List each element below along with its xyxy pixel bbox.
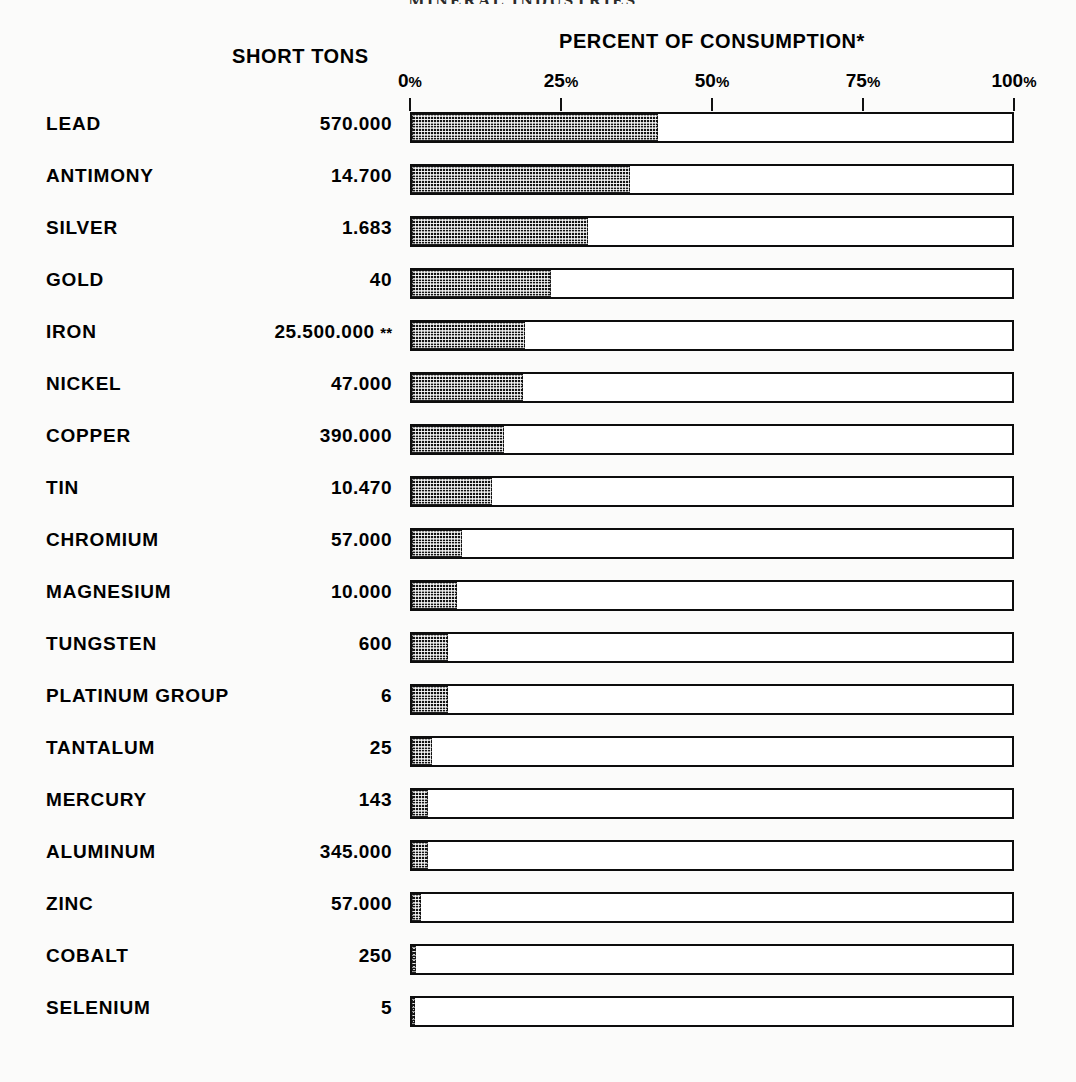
- bar-fill: [412, 218, 588, 245]
- row-short-tons-value: 10.470: [160, 477, 392, 499]
- short-tons-number: 570.000: [320, 113, 392, 134]
- row-short-tons-value: 390.000: [160, 425, 392, 447]
- row-label-zinc: ZINC: [46, 893, 94, 915]
- row-short-tons-value: 600: [160, 633, 392, 655]
- bar-fill: [412, 998, 415, 1025]
- short-tons-number: 6: [381, 685, 392, 706]
- short-tons-number: 14.700: [331, 165, 392, 186]
- bar-fill: [412, 270, 551, 297]
- chart-row: PLATINUM GROUP6: [0, 676, 1076, 728]
- chart-row: MERCURY143: [0, 780, 1076, 832]
- bar-track: [410, 684, 1014, 715]
- chart-row: TANTALUM25: [0, 728, 1076, 780]
- row-short-tons-value: 143: [160, 789, 392, 811]
- chart-row: CHROMIUM57.000: [0, 520, 1076, 572]
- short-tons-number: 57.000: [331, 893, 392, 914]
- chart-row: TIN10.470: [0, 468, 1076, 520]
- bar-track: [410, 424, 1014, 455]
- running-head: MINERAL INDUSTRIES: [0, 0, 1076, 4]
- row-short-tons-value: 57.000: [160, 529, 392, 551]
- bar-track: [410, 788, 1014, 819]
- bar-track: [410, 580, 1014, 611]
- row-short-tons-value: 25: [160, 737, 392, 759]
- bar-track: [410, 528, 1014, 559]
- row-label-tungsten: TUNGSTEN: [46, 633, 157, 655]
- chart-row: ZINC57.000: [0, 884, 1076, 936]
- bar-track: [410, 944, 1014, 975]
- bar-track: [410, 372, 1014, 403]
- row-label-tin: TIN: [46, 477, 79, 499]
- short-tons-number: 250: [359, 945, 392, 966]
- bar-fill: [412, 634, 448, 661]
- bar-fill: [412, 790, 428, 817]
- short-tons-number: 47.000: [331, 373, 392, 394]
- row-label-lead: LEAD: [46, 113, 101, 135]
- bar-track: [410, 216, 1014, 247]
- bar-track: [410, 840, 1014, 871]
- row-label-gold: GOLD: [46, 269, 104, 291]
- chart-row: SELENIUM5: [0, 988, 1076, 1040]
- short-tons-number: 25: [370, 737, 392, 758]
- bar-fill: [412, 322, 525, 349]
- bar-fill: [412, 478, 492, 505]
- axis-tick-label-75: 75%: [846, 70, 880, 92]
- bar-fill: [412, 166, 630, 193]
- bar-track: [410, 996, 1014, 1027]
- bar-fill: [412, 114, 658, 141]
- bar-track: [410, 164, 1014, 195]
- chart-row: SILVER1.683: [0, 208, 1076, 260]
- chart-row: ALUMINUM345.000: [0, 832, 1076, 884]
- row-label-antimony: ANTIMONY: [46, 165, 154, 187]
- chart-row: NICKEL47.000: [0, 364, 1076, 416]
- bar-track: [410, 736, 1014, 767]
- short-tons-number: 57.000: [331, 529, 392, 550]
- short-tons-number: 10.470: [331, 477, 392, 498]
- row-label-tantalum: TANTALUM: [46, 737, 155, 759]
- row-short-tons-value: 6: [160, 685, 392, 707]
- row-label-selenium: SELENIUM: [46, 997, 151, 1019]
- row-label-silver: SILVER: [46, 217, 118, 239]
- short-tons-number: 1.683: [342, 217, 392, 238]
- row-short-tons-value: 5: [160, 997, 392, 1019]
- short-tons-number: 143: [359, 789, 392, 810]
- axis-tick-label-100: 100%: [991, 70, 1036, 92]
- row-label-magnesium: MAGNESIUM: [46, 581, 171, 603]
- bar-fill: [412, 894, 421, 921]
- chart-row: ANTIMONY14.700: [0, 156, 1076, 208]
- short-tons-number: 25.500.000: [274, 321, 374, 342]
- row-short-tons-value: 25.500.000 **: [160, 321, 392, 343]
- row-label-cobalt: COBALT: [46, 945, 129, 967]
- short-tons-number: 10.000: [331, 581, 392, 602]
- row-label-iron: IRON: [46, 321, 97, 343]
- bar-fill: [412, 582, 457, 609]
- row-short-tons-value: 57.000: [160, 893, 392, 915]
- bar-fill: [412, 842, 428, 869]
- row-short-tons-value: 14.700: [160, 165, 392, 187]
- short-tons-number: 390.000: [320, 425, 392, 446]
- row-label-chromium: CHROMIUM: [46, 529, 159, 551]
- bar-fill: [412, 374, 523, 401]
- bar-track: [410, 476, 1014, 507]
- bar-track: [410, 320, 1014, 351]
- row-label-mercury: MERCURY: [46, 789, 147, 811]
- row-short-tons-value: 570.000: [160, 113, 392, 135]
- bar-fill: [412, 946, 416, 973]
- chart-row: GOLD40: [0, 260, 1076, 312]
- row-label-aluminum: ALUMINUM: [46, 841, 156, 863]
- chart-row: COBALT250: [0, 936, 1076, 988]
- short-tons-number: 5: [381, 997, 392, 1018]
- row-short-tons-value: 345.000: [160, 841, 392, 863]
- chart-row: COPPER390.000: [0, 416, 1076, 468]
- short-tons-number: 600: [359, 633, 392, 654]
- bar-fill: [412, 530, 462, 557]
- column-header-short-tons: SHORT TONS: [232, 45, 369, 68]
- bar-fill: [412, 686, 448, 713]
- footnote-marker: **: [380, 324, 392, 341]
- axis-tick-label-50: 50%: [695, 70, 729, 92]
- bar-track: [410, 892, 1014, 923]
- bar-chart-rows: LEAD570.000ANTIMONY14.700SILVER1.683GOLD…: [0, 104, 1076, 1040]
- chart-row: MAGNESIUM10.000: [0, 572, 1076, 624]
- bar-track: [410, 112, 1014, 143]
- row-short-tons-value: 10.000: [160, 581, 392, 603]
- chart-row: IRON25.500.000 **: [0, 312, 1076, 364]
